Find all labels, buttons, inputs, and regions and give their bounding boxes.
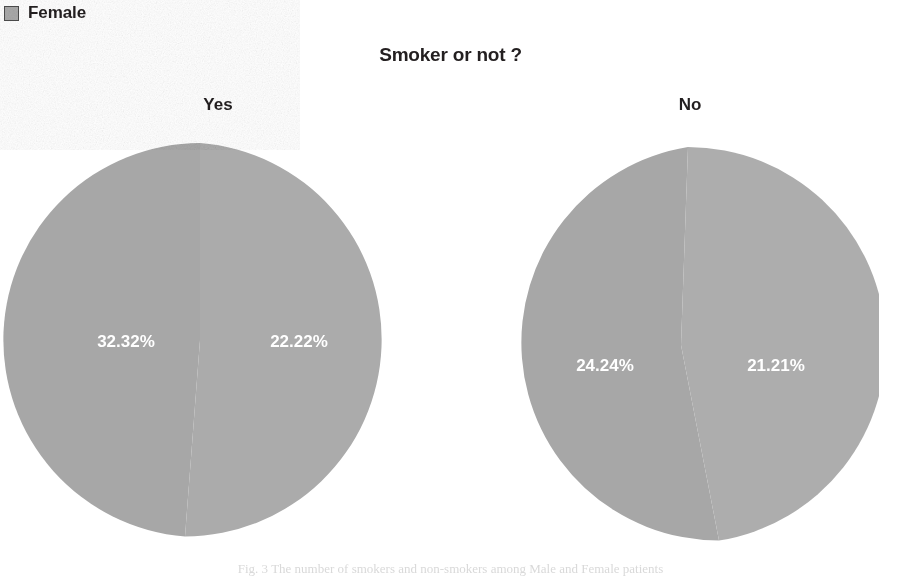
legend-label-female: Female — [28, 3, 86, 23]
pie-no-label-left: 24.24% — [576, 356, 634, 375]
legend: Female — [4, 3, 86, 23]
pie-yes-label-left: 32.32% — [97, 332, 155, 351]
pie-chart-yes: 32.32% 22.22% — [3, 143, 397, 537]
pie-yes-label-right: 22.22% — [270, 332, 328, 351]
pie-no-label-right: 21.21% — [747, 356, 805, 375]
pie-no-slice-right — [681, 147, 879, 540]
figure-caption: Fig. 3 The number of smokers and non-smo… — [0, 561, 901, 577]
panel-label-no: No — [610, 95, 770, 115]
panel-label-yes: Yes — [138, 95, 298, 115]
pie-chart-no: 24.24% 21.21% — [483, 147, 879, 543]
legend-swatch-female — [4, 6, 19, 21]
chart-title: Smoker or not ? — [0, 44, 901, 66]
